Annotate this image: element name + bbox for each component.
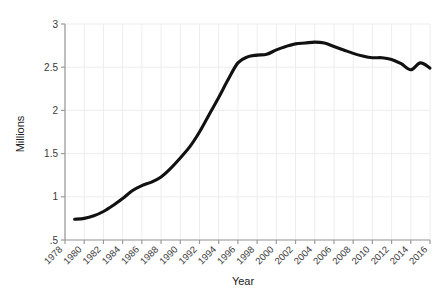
x-tick-label: 2000 — [253, 244, 276, 267]
y-tick-label: 2.5 — [44, 62, 58, 73]
x-tick-label: 1988 — [138, 244, 161, 267]
x-tick-label: 1994 — [195, 244, 218, 267]
y-tick-label: 3 — [52, 19, 58, 30]
x-tick-label: 2016 — [407, 244, 430, 267]
x-axis-title: Year — [232, 275, 255, 287]
x-tick-label: 1982 — [80, 244, 103, 267]
x-tick-label: 2008 — [330, 244, 353, 267]
x-axis-ticks — [65, 240, 430, 244]
y-tick-label: 2 — [52, 105, 58, 116]
x-tick-label: 2006 — [311, 244, 334, 267]
x-tick-label: 1984 — [99, 244, 122, 267]
data-series-line — [75, 42, 430, 219]
x-tick-label: 1978 — [42, 244, 65, 267]
y-axis-tick-labels: .511.522.53 — [44, 19, 58, 246]
chart-container: .511.522.53 1978198019821984198619881990… — [0, 0, 445, 292]
x-tick-label: 2012 — [368, 244, 391, 267]
x-tick-label: 1986 — [119, 244, 142, 267]
x-tick-label: 2004 — [291, 244, 314, 267]
x-tick-label: 1996 — [215, 244, 238, 267]
x-tick-label: 2010 — [349, 244, 372, 267]
x-tick-label: 1998 — [234, 244, 257, 267]
x-tick-label: 1990 — [157, 244, 180, 267]
x-axis-tick-labels: 1978198019821984198619881990199219941996… — [42, 244, 430, 267]
y-axis-title: Millions — [14, 115, 26, 152]
line-chart: .511.522.53 1978198019821984198619881990… — [0, 0, 445, 292]
x-tick-label: 1992 — [176, 244, 199, 267]
y-tick-label: 1 — [52, 191, 58, 202]
x-tick-label: 2014 — [387, 244, 410, 267]
x-tick-label: 1980 — [61, 244, 84, 267]
y-tick-label: 1.5 — [44, 148, 58, 159]
y-tick-label: .5 — [50, 235, 59, 246]
x-tick-label: 2002 — [272, 244, 295, 267]
